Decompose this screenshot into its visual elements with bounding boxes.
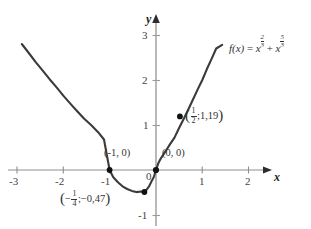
function-label-plus: + bbox=[266, 42, 273, 54]
ytick-label-two: 2 bbox=[142, 75, 148, 86]
function-label-term2-exponent: 53 bbox=[280, 37, 284, 46]
annotation-half-value: 1,19 bbox=[200, 110, 218, 121]
function-graph-figure: -3 -2 -1 0 1 2 3 2 1 -1 y x (-1, 0) (0, … bbox=[0, 0, 311, 229]
function-label-term1-exponent: 23 bbox=[261, 37, 265, 46]
annotation-minimum-value: −0,47 bbox=[81, 193, 105, 204]
ytick-label-negone: -1 bbox=[138, 210, 147, 221]
plot-area bbox=[0, 0, 311, 229]
annotation-root-minus-one: (-1, 0) bbox=[104, 148, 130, 159]
function-label-equals: = bbox=[246, 42, 253, 54]
annotation-half-paren-close: ) bbox=[218, 107, 223, 123]
x-axis-label: x bbox=[274, 171, 280, 183]
annotation-half-point: (12;1,19) bbox=[185, 107, 223, 125]
xtick-label-neg1: -1 bbox=[101, 176, 110, 187]
ytick-label-one: 1 bbox=[143, 120, 149, 131]
annotation-minimum-paren-close: ) bbox=[105, 190, 110, 206]
y-axis-label: y bbox=[146, 13, 151, 25]
function-label-name: f(x) bbox=[229, 42, 244, 54]
xtick-label-neg3: -3 bbox=[9, 176, 18, 187]
annotation-minimum: (−14;−0,47) bbox=[60, 190, 110, 208]
annotation-minimum-paren-open: ( bbox=[60, 190, 65, 206]
function-label: f(x)=x23+x53 bbox=[229, 38, 284, 54]
ytick-label-three: 3 bbox=[142, 30, 148, 41]
marker-minimum bbox=[142, 189, 148, 195]
annotation-minimum-minus: − bbox=[65, 193, 71, 204]
marker-half-point bbox=[177, 114, 183, 120]
xtick-label-zero: 0 bbox=[146, 171, 152, 182]
xtick-label-one: 1 bbox=[199, 176, 205, 187]
marker-root-minus-one bbox=[107, 167, 113, 173]
annotation-half-paren-open: ( bbox=[185, 107, 190, 123]
marker-origin bbox=[153, 167, 159, 173]
annotation-minimum-fraction: 14 bbox=[71, 190, 77, 208]
annotation-half-fraction: 12 bbox=[191, 107, 197, 125]
xtick-label-neg2: -2 bbox=[55, 176, 64, 187]
y-axis-arrowhead bbox=[152, 14, 160, 23]
xtick-label-two: 2 bbox=[245, 176, 251, 187]
annotation-origin: (0, 0) bbox=[162, 148, 185, 159]
x-axis-arrowhead bbox=[263, 166, 272, 173]
